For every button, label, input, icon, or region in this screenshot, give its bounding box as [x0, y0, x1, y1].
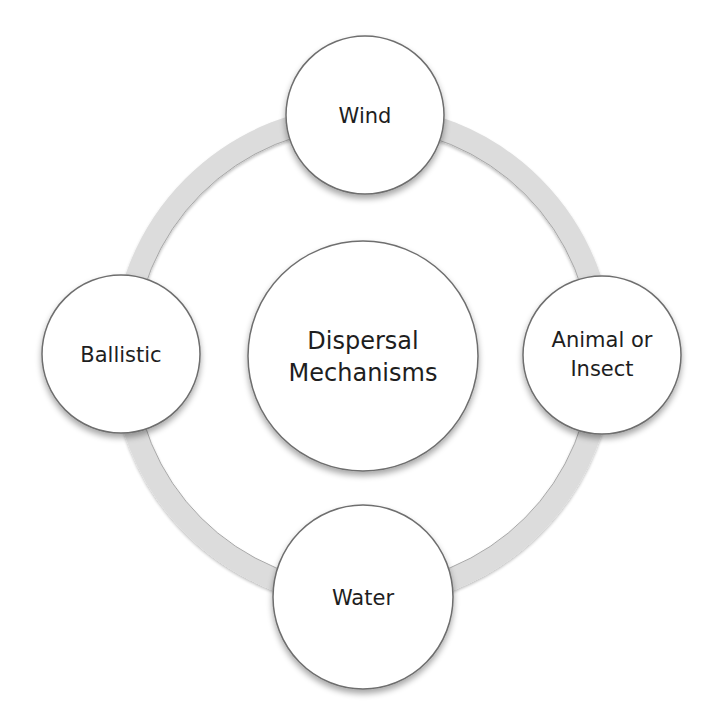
node-water-label: Water [332, 586, 394, 610]
center-node: Dispersal Mechanisms [248, 241, 478, 471]
node-water: Water [273, 505, 453, 689]
dispersal-cycle-diagram: Dispersal Mechanisms Wind Animal or Inse… [0, 0, 713, 726]
node-wind-label: Wind [339, 104, 392, 128]
node-animal-label-line-1: Animal or [552, 328, 653, 352]
center-label-line-1: Dispersal [307, 327, 418, 355]
node-animal-label-line-2: Insect [570, 357, 633, 381]
node-wind: Wind [286, 36, 444, 194]
node-animal-or-insect: Animal or Insect [523, 276, 681, 434]
node-ballistic: Ballistic [42, 275, 200, 433]
diagram-svg: Dispersal Mechanisms Wind Animal or Inse… [0, 0, 713, 726]
node-ballistic-label: Ballistic [80, 343, 161, 367]
center-label-line-2: Mechanisms [289, 359, 438, 387]
